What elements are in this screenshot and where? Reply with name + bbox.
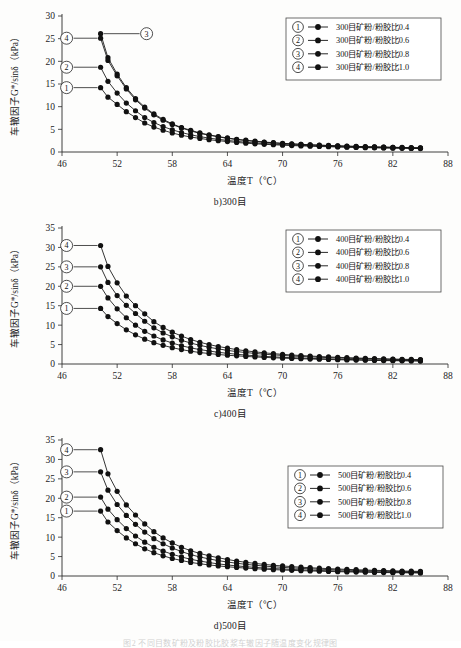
series-data-point	[161, 553, 166, 558]
series-data-point	[170, 340, 175, 345]
series-data-point	[105, 264, 110, 269]
series-data-point	[188, 548, 193, 553]
chart-svg-300mesh[interactable]: 4652586470768288051015202530温度T（℃）车辙因子G*…	[0, 0, 461, 198]
x-axis-tick-label: 70	[278, 583, 288, 593]
x-axis-tick-label: 64	[223, 159, 233, 169]
series-data-point	[326, 566, 331, 571]
x-axis-title: 温度T（℃）	[227, 175, 283, 186]
series-data-point	[197, 340, 202, 345]
series-data-point	[151, 550, 156, 555]
y-axis-tick-label: 25	[46, 474, 56, 484]
callout-marker-label: 4	[65, 34, 69, 43]
x-axis-tick-label: 88	[443, 583, 453, 593]
series-data-point	[115, 321, 120, 326]
series-data-point	[105, 295, 110, 300]
legend-entry-label: 300目矿粉/粉胶比1.0	[336, 62, 409, 72]
series-data-point	[225, 136, 230, 141]
series-data-point	[142, 329, 147, 334]
callout-marker-label: 2	[65, 63, 69, 72]
x-axis-tick-label: 88	[443, 371, 453, 381]
series-data-point	[161, 330, 166, 335]
chart-caption-400mesh: c)400目	[0, 406, 461, 420]
legend-dot-sample	[317, 472, 323, 478]
series-data-point	[206, 553, 211, 558]
legend-marker-label: 3	[296, 262, 300, 271]
series-data-point	[161, 549, 166, 554]
y-axis-tick-label: 25	[46, 262, 56, 272]
series-data-point	[98, 495, 103, 500]
series-data-point	[354, 567, 359, 572]
callout-marker-label: 1	[65, 507, 69, 516]
series-data-point	[142, 115, 147, 120]
y-axis-tick-label: 0	[50, 359, 55, 369]
series-data-point	[124, 513, 129, 518]
y-axis-tick-label: 10	[46, 321, 56, 331]
series-data-point	[133, 512, 138, 517]
callout-marker-label: 3	[65, 263, 69, 272]
x-axis-tick-label: 46	[57, 371, 67, 381]
series-data-point	[326, 354, 331, 359]
chart-legend: 1400目矿粉/粉胶比0.42400目矿粉/粉胶比0.63400目矿粉/粉胶比0…	[286, 230, 441, 292]
series-data-point	[115, 528, 120, 533]
x-axis-tick-label: 88	[443, 159, 453, 169]
legend-marker-label: 4	[296, 275, 300, 284]
series-data-point	[179, 125, 184, 130]
series-data-point	[225, 345, 230, 350]
series-data-point	[142, 540, 147, 545]
series-data-point	[115, 502, 120, 507]
series-data-point	[98, 447, 103, 452]
series-data-point	[399, 568, 404, 573]
x-axis-tick-label: 76	[333, 583, 343, 593]
series-line	[101, 88, 421, 149]
legend-dot-sample	[317, 512, 323, 518]
series-data-point	[124, 86, 129, 91]
series-data-point	[280, 563, 285, 568]
series-data-point	[115, 73, 120, 78]
series-data-point	[151, 529, 156, 534]
x-axis-tick-label: 82	[388, 371, 398, 381]
series-data-point	[115, 306, 120, 311]
series-callout: 1	[61, 82, 98, 94]
series-data-point	[124, 109, 129, 114]
series-data-point	[335, 566, 340, 571]
callout-marker-label: 4	[65, 446, 69, 455]
series-data-point	[372, 356, 377, 361]
chart-svg-400mesh[interactable]: 465258647076828805101520253035温度T（℃）车辙因子…	[0, 212, 461, 410]
series-data-point	[317, 143, 322, 148]
series-callout: 3	[104, 28, 153, 40]
legend-marker-label: 2	[298, 484, 302, 493]
y-axis-tick-label: 0	[50, 147, 55, 157]
series-data-point	[133, 303, 138, 308]
series-data-point	[133, 323, 138, 328]
series-data-point	[243, 560, 248, 565]
series-data-point	[151, 340, 156, 345]
series-data-point	[363, 567, 368, 572]
series-data-point	[197, 131, 202, 136]
legend-marker-label: 4	[298, 511, 302, 520]
series-data-point	[133, 533, 138, 538]
series-data-point	[243, 348, 248, 353]
series-data-point	[372, 144, 377, 149]
series-data-point	[98, 264, 103, 269]
series-data-point	[399, 145, 404, 150]
series-data-point	[298, 142, 303, 147]
series-data-point	[105, 95, 110, 100]
series-data-point	[98, 284, 103, 289]
chart-legend: 1500目矿粉/粉胶比0.42500目矿粉/粉胶比0.63500目矿粉/粉胶比0…	[288, 466, 443, 528]
series-data-point	[335, 143, 340, 148]
chart-svg-500mesh[interactable]: 465258647076828805101520253035温度T（℃）车辙因子…	[0, 424, 461, 622]
series-data-point	[216, 555, 221, 560]
y-axis-tick-label: 0	[50, 571, 55, 581]
series-data-point	[252, 349, 257, 354]
series-callout: 1	[61, 302, 98, 314]
y-axis-tick-label: 10	[46, 102, 56, 112]
series-data-point	[280, 141, 285, 146]
chart-series	[98, 284, 423, 364]
series-data-point	[133, 115, 138, 120]
series-data-point	[216, 344, 221, 349]
y-axis-tick-label: 35	[46, 223, 56, 233]
series-line	[101, 308, 421, 361]
series-data-point	[124, 315, 129, 320]
series-data-point	[151, 112, 156, 117]
